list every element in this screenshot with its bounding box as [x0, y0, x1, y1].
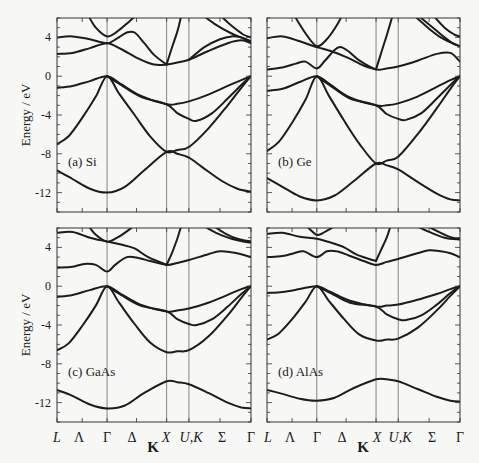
- y-tick-label: -4: [41, 108, 51, 122]
- band-conduction-4: [167, 16, 182, 65]
- x-axis-label-right: K: [357, 439, 369, 455]
- band-conduction-2: [57, 32, 167, 65]
- band-conduction-4: [376, 16, 392, 69]
- kpoint-UK: U,K: [389, 430, 413, 445]
- y-tick-label: -4: [41, 318, 51, 332]
- kpoint-gamma: Γ: [313, 430, 321, 445]
- y-tick-label: -12: [35, 186, 51, 200]
- band-structure-figure: Energy / eV Energy / eV 40-4-8-12(a) Si …: [0, 0, 479, 463]
- panel-label: (a) Si: [68, 154, 97, 169]
- y-tick-label: -8: [41, 357, 51, 371]
- kpoint-sigma: Σ: [428, 430, 436, 445]
- band-valence-2: [267, 286, 460, 341]
- band-conduction-3: [306, 225, 337, 235]
- band-conduction-6: [418, 15, 461, 46]
- kpoint-gamma-end: Γ: [456, 430, 464, 445]
- panel-si: 40-4-8-12(a) Si: [35, 15, 251, 212]
- y-axis-label-bottom: Energy / eV: [18, 293, 33, 356]
- kpoint-gamma: Γ: [103, 430, 111, 445]
- panel-label: (d) AlAs: [278, 364, 323, 379]
- bands: [57, 225, 251, 408]
- y-tick-label: -12: [35, 396, 51, 410]
- band-conduction-1: [57, 251, 251, 271]
- band-valence-4: [317, 76, 460, 120]
- band-valence-2: [57, 286, 251, 352]
- panel-alas: (d) AlAs: [267, 225, 460, 422]
- kpoint-UK: U,K: [180, 430, 204, 445]
- plot-frame: [57, 18, 251, 212]
- y-tick-label: -8: [41, 147, 51, 161]
- kpoint-lambda: Λ: [285, 430, 296, 445]
- bands: [267, 15, 460, 200]
- band-conduction-2: [57, 232, 167, 265]
- band-valence-1: [57, 381, 251, 409]
- band-conduction-4: [376, 226, 391, 261]
- band-valence-3: [267, 286, 460, 307]
- kpoint-X: X: [161, 430, 171, 445]
- band-valence-4: [107, 286, 251, 325]
- kpoint-delta: Δ: [337, 430, 346, 445]
- kpoint-L: L: [52, 430, 61, 445]
- y-tick-label: 4: [45, 30, 51, 44]
- plot-frame: [57, 228, 251, 422]
- band-valence-4: [107, 76, 251, 121]
- kpoint-gamma-end: Γ: [247, 430, 255, 445]
- panel-gaas: 40-4-8-12(c) GaAs: [35, 225, 251, 422]
- y-tick-label: 0: [45, 279, 51, 293]
- x-axis-kpoints-right: L Λ Γ Δ X U,K Σ Γ K: [263, 430, 464, 455]
- y-tick-label: 0: [45, 69, 51, 83]
- x-axis-kpoints-left: L Λ Γ Δ X U,K Σ Γ K: [52, 430, 255, 455]
- band-valence-4: [317, 286, 460, 320]
- kpoint-L: L: [263, 430, 272, 445]
- kpoint-delta: Δ: [127, 430, 136, 445]
- band-conduction-1: [57, 40, 251, 65]
- y-axis-label-top: Energy / eV: [18, 83, 33, 146]
- kpoint-X: X: [372, 430, 382, 445]
- panel-label: (c) GaAs: [68, 364, 115, 379]
- x-axis-label-left: K: [147, 439, 159, 455]
- panel-ge: (b) Ge: [267, 15, 460, 212]
- band-valence-1: [267, 379, 460, 402]
- kpoint-sigma: Σ: [218, 430, 226, 445]
- kpoint-lambda: Λ: [74, 430, 85, 445]
- band-conduction-4: [167, 226, 182, 265]
- panel-label: (b) Ge: [278, 154, 312, 169]
- y-tick-label: 4: [45, 240, 51, 254]
